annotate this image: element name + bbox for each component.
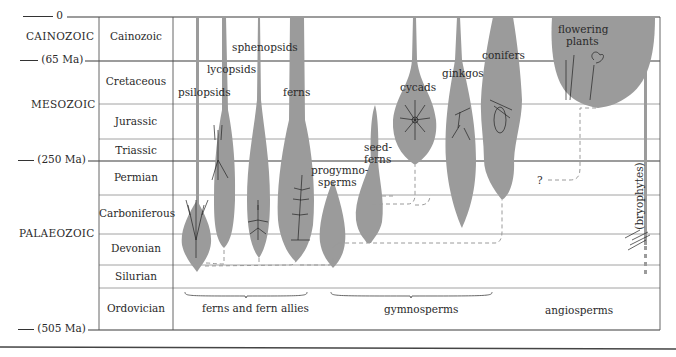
time-tick-65ma: (65 Ma) — [20, 53, 85, 65]
bottom-rule — [0, 347, 676, 349]
label-progymnosperms-1: progymno- — [311, 164, 368, 176]
label-seed-ferns-2: ferns — [364, 153, 391, 165]
label-psilopsids: psilopsids — [178, 86, 231, 98]
group-braces — [185, 292, 492, 298]
period-jurassic: Jurassic — [99, 115, 173, 127]
period-permian: Permian — [99, 171, 173, 183]
label-cycads: cycads — [400, 81, 436, 93]
era-palaeozoic: PALAEOZOIC — [19, 227, 95, 239]
label-flowering: flowering — [558, 23, 608, 35]
lineage-shapes — [182, 17, 655, 274]
period-ordovician: Ordovician — [99, 302, 173, 314]
time-tick-505ma: (505 Ma) — [18, 322, 88, 334]
group-gymnosperms: gymnosperms — [384, 303, 458, 315]
period-triassic: Triassic — [99, 144, 173, 156]
period-devonian: Devonian — [99, 242, 173, 254]
label-progymnosperms-2: sperms — [318, 176, 357, 188]
label-ginkgos: ginkgos — [442, 67, 484, 79]
period-cainozoic: Cainozoic — [99, 30, 173, 42]
label-sphenopsids: sphenopsids — [232, 41, 298, 53]
time-tick-250ma: (250 Ma) — [18, 153, 88, 165]
label-seed-ferns-1: seed- — [364, 141, 392, 153]
time-tick-0: 0 — [23, 9, 63, 21]
label-lycopsids: lycopsids — [207, 63, 256, 75]
period-silurian: Silurian — [99, 270, 173, 282]
period-cretaceous: Cretaceous — [99, 75, 173, 87]
label-plants: plants — [566, 35, 599, 47]
label-ferns: ferns — [283, 86, 310, 98]
era-mesozoic: MESOZOIC — [31, 98, 96, 110]
period-carboniferous: Carboniferous — [99, 207, 173, 219]
label-conifers: conifers — [482, 49, 525, 61]
label-question-mark: ? — [537, 174, 543, 186]
group-ferns-and-fern-allies: ferns and fern allies — [202, 302, 309, 314]
era-cainozoic: CAINOZOIC — [26, 30, 94, 42]
label-bryophytes: (bryophytes) — [633, 161, 645, 231]
group-angiosperms: angiosperms — [545, 304, 613, 316]
